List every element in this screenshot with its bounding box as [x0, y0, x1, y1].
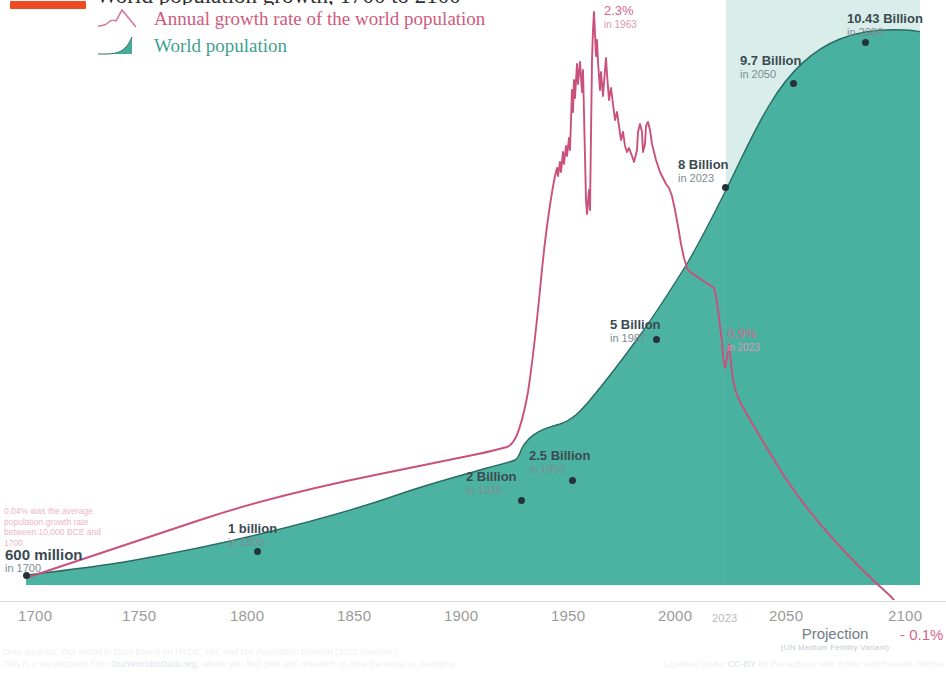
- x-axis-line: [0, 601, 946, 602]
- annotation-year: in 2050: [740, 68, 801, 81]
- footer-visualization-note: This is a visualization from OurWorldInD…: [3, 658, 457, 670]
- annotation-value: 2 Billion: [466, 470, 517, 484]
- annotation-year: in 2086: [847, 26, 923, 39]
- historic-growth-rate-note: 0.04% was the average population growth …: [4, 506, 114, 548]
- data-point-2-billion: [518, 497, 525, 504]
- annotation-year: in 2023: [678, 172, 729, 185]
- annotation-9-7-billion: 9.7 Billion in 2050: [740, 54, 801, 81]
- x-axis-tick-2100: 2100: [888, 607, 922, 624]
- growth-rate-end-value: - 0.1%: [900, 626, 943, 643]
- data-point-8-billion: [722, 184, 729, 191]
- x-axis-tick-1850: 1850: [337, 607, 371, 624]
- annotation-value: 5 Billion: [610, 318, 661, 332]
- chart-root: World population growth, 1700 to 2100 An…: [0, 0, 946, 674]
- annotation-year: in 1950: [529, 463, 590, 476]
- annotation-8-billion: 8 Billion in 2023: [678, 158, 729, 185]
- annotation-year: in 1805: [228, 536, 277, 549]
- x-axis-tick-1750: 1750: [122, 607, 156, 624]
- annotation-2-billion: 2 Billion in 1925: [466, 470, 517, 497]
- annotation-value: 9.7 Billion: [740, 54, 801, 68]
- data-point-1-billion: [254, 548, 261, 555]
- annotation-year: in 1987: [610, 332, 661, 345]
- license-text-pre: Licensed under: [663, 659, 727, 669]
- annotation-year: in 1700: [5, 562, 83, 575]
- annotation-value: 0.9%: [727, 327, 760, 341]
- x-axis-tick-1700: 1700: [18, 607, 52, 624]
- x-axis-tick-2050: 2050: [769, 607, 803, 624]
- annotation-10-43-billion: 10.43 Billion in 2086: [847, 12, 923, 39]
- chart-footer: Data sources: Our World in Data based on…: [3, 646, 943, 670]
- footer-license: Licensed under CC-BY by the authors Max …: [663, 658, 943, 670]
- x-axis-tick-1900: 1900: [444, 607, 478, 624]
- footer-text-pre: This is a visualization from: [3, 659, 111, 669]
- annotation-peak-growth-rate: 2.3% in 1963: [604, 4, 637, 31]
- annotation-value: 1 billion: [228, 522, 277, 536]
- annotation-value: 8 Billion: [678, 158, 729, 172]
- annotation-growth-rate-2023: 0.9% in 2023: [727, 327, 760, 354]
- annotation-value: 2.3%: [604, 4, 637, 18]
- x-axis-tick-2023: 2023: [712, 612, 737, 624]
- data-point-9-7-billion: [790, 80, 797, 87]
- annotation-600-million: 600 million in 1700: [5, 548, 83, 575]
- owid-link[interactable]: OurWorldInData.org: [111, 659, 197, 669]
- footer-data-sources: Data sources: Our World in Data based on…: [3, 646, 401, 658]
- license-text-post: by the authors Max Roser and Hannah Ritc…: [756, 659, 943, 669]
- annotation-year: in 1925: [466, 484, 517, 497]
- x-axis-tick-2000: 2000: [658, 607, 692, 624]
- chart-plot-area: [0, 0, 946, 600]
- annotation-1-billion: 1 billion in 1805: [228, 522, 277, 549]
- annotation-value: 2.5 Billion: [529, 449, 590, 463]
- data-point-2-5-billion: [569, 477, 576, 484]
- projection-shading: [726, 0, 920, 585]
- annotation-year: in 1963: [604, 18, 637, 31]
- annotation-value: 10.43 Billion: [847, 12, 923, 26]
- x-axis-tick-1950: 1950: [551, 607, 585, 624]
- footer-text-post: , where you find data and research on ho…: [197, 659, 457, 669]
- x-axis-tick-1800: 1800: [230, 607, 264, 624]
- annotation-2-5-billion: 2.5 Billion in 1950: [529, 449, 590, 476]
- annotation-value: 600 million: [5, 548, 83, 562]
- projection-label: Projection: [760, 625, 910, 642]
- annotation-year: in 2023: [727, 341, 760, 354]
- data-point-10-43-billion: [862, 39, 869, 46]
- cc-by-link[interactable]: CC-BY: [727, 659, 756, 669]
- annotation-5-billion: 5 Billion in 1987: [610, 318, 661, 345]
